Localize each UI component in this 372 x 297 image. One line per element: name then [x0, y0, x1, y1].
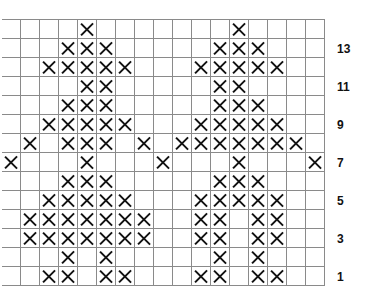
x-mark-icon	[137, 136, 151, 150]
chart-cell	[135, 96, 154, 115]
chart-cell	[287, 191, 306, 210]
x-mark-icon	[251, 269, 265, 283]
chart-cell	[78, 115, 97, 134]
chart-cell	[230, 172, 249, 191]
chart-cell	[192, 267, 211, 286]
chart-cell	[78, 229, 97, 248]
chart-cell	[116, 96, 135, 115]
chart-cell	[287, 267, 306, 286]
chart-cell	[116, 20, 135, 39]
chart-cell	[59, 77, 78, 96]
chart-cell	[59, 191, 78, 210]
chart-cell	[154, 191, 173, 210]
chart-cell	[268, 134, 287, 153]
chart-cell	[249, 115, 268, 134]
x-mark-icon	[232, 41, 246, 55]
row-label: 11	[337, 80, 367, 94]
chart-cell	[59, 96, 78, 115]
chart-cell	[173, 210, 192, 229]
chart-cell	[40, 210, 59, 229]
x-mark-icon	[213, 60, 227, 74]
chart-cell	[2, 134, 21, 153]
x-mark-icon	[270, 193, 284, 207]
x-mark-icon	[80, 174, 94, 188]
chart-cell	[306, 77, 325, 96]
chart-cell	[59, 153, 78, 172]
chart-cell	[287, 115, 306, 134]
chart-cell	[249, 267, 268, 286]
x-mark-icon	[99, 193, 113, 207]
x-mark-icon	[99, 212, 113, 226]
chart-cell	[116, 248, 135, 267]
chart-cell	[173, 229, 192, 248]
chart-cell	[154, 20, 173, 39]
chart-cell	[192, 172, 211, 191]
chart-cell	[116, 39, 135, 58]
row-label: 3	[337, 232, 367, 246]
chart-cell	[211, 153, 230, 172]
x-mark-icon	[23, 212, 37, 226]
chart-cell	[268, 210, 287, 229]
chart-cell	[78, 172, 97, 191]
stitch-grid	[2, 19, 325, 286]
chart-cell	[40, 191, 59, 210]
x-mark-icon	[194, 193, 208, 207]
chart-cell	[192, 153, 211, 172]
x-mark-icon	[232, 79, 246, 93]
chart-cell	[306, 96, 325, 115]
chart-cell	[21, 96, 40, 115]
chart-cell	[154, 39, 173, 58]
chart-cell	[21, 153, 40, 172]
chart-cell	[135, 58, 154, 77]
x-mark-icon	[270, 60, 284, 74]
chart-cell	[306, 229, 325, 248]
chart-cell	[135, 153, 154, 172]
x-mark-icon	[270, 231, 284, 245]
chart-cell	[78, 248, 97, 267]
chart-cell	[230, 96, 249, 115]
chart-cell	[154, 153, 173, 172]
chart-cell	[154, 96, 173, 115]
x-mark-icon	[194, 212, 208, 226]
x-mark-icon	[80, 155, 94, 169]
chart-cell	[135, 229, 154, 248]
x-mark-icon	[232, 22, 246, 36]
x-mark-icon	[99, 269, 113, 283]
x-mark-icon	[213, 250, 227, 264]
chart-cell	[40, 229, 59, 248]
chart-cell	[173, 267, 192, 286]
chart-cell	[2, 210, 21, 229]
x-mark-icon	[232, 98, 246, 112]
chart-cell	[287, 39, 306, 58]
chart-cell	[268, 96, 287, 115]
chart-cell	[211, 77, 230, 96]
chart-cell	[287, 58, 306, 77]
chart-row	[2, 115, 325, 134]
x-mark-icon	[80, 60, 94, 74]
x-mark-icon	[118, 231, 132, 245]
chart-cell	[173, 153, 192, 172]
x-mark-icon	[232, 60, 246, 74]
chart-row	[2, 96, 325, 115]
x-mark-icon	[23, 231, 37, 245]
chart-cell	[21, 39, 40, 58]
chart-cell	[230, 58, 249, 77]
chart-cell	[249, 39, 268, 58]
chart-cell	[249, 20, 268, 39]
chart-cell	[40, 39, 59, 58]
chart-cell	[230, 267, 249, 286]
chart-cell	[268, 267, 287, 286]
x-mark-icon	[99, 117, 113, 131]
chart-cell	[306, 210, 325, 229]
chart-cell	[135, 20, 154, 39]
chart-cell	[249, 96, 268, 115]
chart-cell	[2, 248, 21, 267]
chart-cell	[173, 77, 192, 96]
chart-cell	[78, 267, 97, 286]
x-mark-icon	[80, 193, 94, 207]
x-mark-icon	[213, 174, 227, 188]
chart-cell	[97, 58, 116, 77]
chart-cell	[40, 115, 59, 134]
x-mark-icon	[251, 41, 265, 55]
chart-cell	[192, 115, 211, 134]
